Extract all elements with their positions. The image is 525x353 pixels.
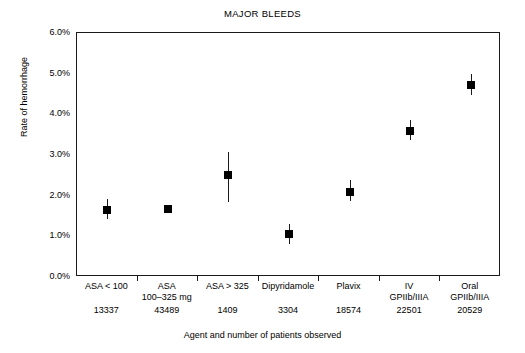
chart-figure: MAJOR BLEEDS Rate of hemorrhage 0.0%1.0%… (0, 0, 525, 353)
y-tick-label: 3.0% (0, 149, 76, 159)
y-tick-label: 4.0% (0, 108, 76, 118)
y-tick-text: 2.0% (49, 190, 76, 200)
x-category-label: Plavix18574 (318, 281, 379, 316)
x-category-text: ASA (137, 281, 198, 292)
data-point-marker (467, 81, 475, 89)
x-category-text: 100–325 mg (137, 292, 198, 303)
y-tick-text: 1.0% (49, 230, 76, 240)
y-tick-label: 5.0% (0, 68, 76, 78)
x-category-text: GPIIb/IIIA (379, 292, 440, 303)
x-category-label: Dipyridamole3304 (258, 281, 319, 316)
x-category-text: ASA > 325 (197, 281, 258, 292)
x-category-text: IV (379, 281, 440, 292)
x-category-text: Plavix (318, 281, 379, 292)
y-tick-label: 2.0% (0, 190, 76, 200)
y-tick-text: 4.0% (49, 108, 76, 118)
x-category-text: Dipyridamole (258, 281, 319, 292)
y-tick-label: 0.0% (0, 271, 76, 281)
y-tick-text: 6.0% (49, 27, 76, 37)
chart-title: MAJOR BLEEDS (0, 8, 525, 19)
data-point-marker (103, 206, 111, 214)
y-tick-text: 0.0% (49, 271, 76, 281)
x-category-count: 13337 (76, 305, 137, 316)
y-tick-label: 1.0% (0, 230, 76, 240)
y-tick-text: 5.0% (49, 68, 76, 78)
x-category-label: IVGPIIb/IIIA22501 (379, 281, 440, 316)
x-category-text: Oral (439, 281, 500, 292)
x-category-count: 18574 (318, 305, 379, 316)
data-point-marker (285, 230, 293, 238)
x-category-label: OralGPIIb/IIIA20529 (439, 281, 500, 316)
x-category-label: ASA100–325 mg43489 (137, 281, 198, 316)
x-category-text: ASA < 100 (76, 281, 137, 292)
x-category-count: 1409 (197, 305, 258, 316)
plot-area (76, 32, 500, 276)
y-tick-text: 3.0% (49, 149, 76, 159)
x-axis-title: Agent and number of patients observed (0, 330, 525, 340)
x-category-count: 22501 (379, 305, 440, 316)
y-tick-label: 6.0% (0, 27, 76, 37)
data-point-marker (346, 188, 354, 196)
x-category-count: 43489 (137, 305, 198, 316)
x-category-label: ASA > 3251409 (197, 281, 258, 316)
data-point-marker (406, 127, 414, 135)
data-point-marker (224, 171, 232, 179)
x-category-label: ASA < 10013337 (76, 281, 137, 316)
x-category-count: 3304 (258, 305, 319, 316)
x-category-count: 20529 (439, 305, 500, 316)
x-category-text: GPIIb/IIIA (439, 292, 500, 303)
data-point-marker (164, 205, 172, 213)
